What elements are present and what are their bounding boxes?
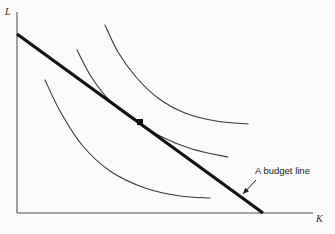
isoquant-budget-line-diagram [0,0,335,234]
plot-background [0,0,335,234]
budget-line-annotation-label: A budget line [255,166,310,176]
x-axis-label: K [316,214,323,224]
y-axis-label: L [5,7,11,17]
tangency-point-marker [137,119,143,125]
